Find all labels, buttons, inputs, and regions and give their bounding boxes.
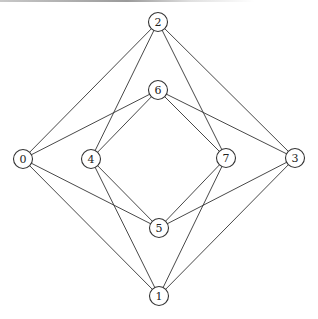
edge-2-4 [91,22,158,159]
edge-6-0 [23,90,158,159]
edge-6-7 [158,90,226,158]
node-7: 7 [217,149,236,168]
node-1: 1 [150,287,169,306]
node-label: 2 [155,16,162,29]
node-label: 0 [20,153,27,166]
node-6: 6 [149,81,168,100]
nodes-layer: 01234567 [14,13,305,306]
edge-6-4 [91,90,158,159]
edge-2-0 [23,22,158,159]
edge-5-7 [159,158,226,228]
edge-5-4 [91,159,159,228]
edge-1-3 [159,158,295,296]
graph-diagram: 01234567 [0,0,318,319]
node-0: 0 [14,150,33,169]
node-3: 3 [286,149,305,168]
node-2: 2 [149,13,168,32]
edge-1-4 [91,159,159,296]
edges-layer [23,22,295,296]
edge-1-7 [159,158,226,296]
node-label: 6 [155,84,162,97]
node-label: 3 [292,152,299,165]
node-label: 4 [88,153,95,166]
edge-6-3 [158,90,295,158]
edge-2-7 [158,22,226,158]
node-label: 5 [156,222,163,235]
node-label: 1 [156,290,163,303]
node-label: 7 [223,152,230,165]
edge-5-3 [159,158,295,228]
node-4: 4 [82,150,101,169]
edge-2-3 [158,22,295,158]
node-5: 5 [150,219,169,238]
edge-1-0 [23,159,159,296]
edge-5-0 [23,159,159,228]
